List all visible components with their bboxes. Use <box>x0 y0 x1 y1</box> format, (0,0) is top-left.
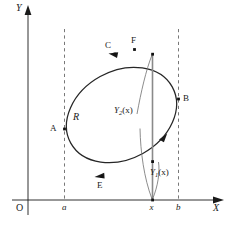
function-upper-arg: (x) <box>122 105 133 115</box>
marker-point-E <box>101 175 104 178</box>
orientation-arrows-group <box>95 52 168 178</box>
leader-line-lower-left <box>140 129 152 200</box>
origin-label: O <box>16 203 23 213</box>
region-label-R: R <box>73 112 79 122</box>
function-upper-subscript: 2 <box>119 109 122 116</box>
x-axis-label: X <box>213 203 219 213</box>
marker-point-C <box>114 53 117 56</box>
point-label-E: E <box>97 181 103 190</box>
tick-label-a: a <box>62 203 67 212</box>
function-label-upper: Y2(x) <box>114 106 133 115</box>
y-axis-label: Y <box>16 3 22 13</box>
marker-intersection-lower <box>151 160 154 163</box>
marker-point-A <box>63 128 66 131</box>
point-label-F: F <box>131 36 136 45</box>
tick-label-x: x <box>150 203 154 212</box>
point-markers-group <box>63 48 180 201</box>
marker-intersection-upper <box>151 53 154 56</box>
point-label-A: A <box>50 124 57 133</box>
function-lower-subscript: 1 <box>155 171 158 178</box>
function-lower-arg: (x) <box>158 167 169 177</box>
y-axis-arrowhead <box>25 5 32 15</box>
orientation-arrow-top <box>109 52 119 58</box>
figure-canvas <box>0 0 232 231</box>
leader-line-upper <box>137 55 152 114</box>
marker-point-B <box>177 98 180 101</box>
function-label-lower: Y1(x) <box>150 168 169 177</box>
math-figure: Y X O a x b R A B C E F Y2(x) Y1(x) <box>0 0 232 231</box>
marker-point-F <box>133 48 136 51</box>
point-label-B: B <box>183 94 189 103</box>
tick-label-b: b <box>176 203 181 212</box>
point-label-C: C <box>105 41 111 50</box>
marker-tick-x <box>151 199 154 202</box>
